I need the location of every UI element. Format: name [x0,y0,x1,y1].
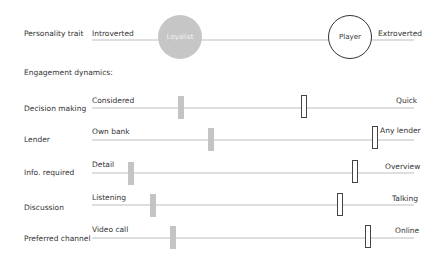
preferred-channel-label: Preferred channel [24,234,91,243]
decision-making-loyalist-marker[interactable] [178,96,184,119]
decision-making-label: Decision making [24,104,86,113]
overview-label: Overview [385,162,420,171]
discussion-loyalist-marker[interactable] [150,194,156,217]
any-lender-label: Any lender [380,126,421,135]
lender-label: Lender [24,135,50,144]
decision-making-track[interactable] [92,107,414,109]
info-required-player-marker[interactable] [352,160,358,183]
talking-label: Talking [392,194,418,203]
loyalist-marker[interactable]: Loyalist [158,15,202,59]
info-required-loyalist-marker[interactable] [128,162,134,185]
video-call-label: Video call [92,225,128,234]
online-label: Online [395,226,419,235]
decision-making-player-marker[interactable] [301,95,307,118]
introverted-label: Introverted [92,29,134,38]
preferred-channel-player-marker[interactable] [365,225,371,248]
detail-label: Detail [92,160,114,169]
discussion-player-marker[interactable] [337,193,343,216]
discussion-label: Discussion [24,203,64,212]
preferred-channel-loyalist-marker[interactable] [170,226,176,249]
lender-track[interactable] [92,139,414,141]
listening-label: Listening [92,193,126,202]
info-required-track[interactable] [92,172,414,174]
lender-loyalist-marker[interactable] [208,128,214,151]
engagement-dynamics-heading: Engagement dynamics: [24,68,113,77]
discussion-track[interactable] [92,204,414,206]
loyalist-label: Loyalist [167,33,194,41]
lender-player-marker[interactable] [372,126,378,149]
info-required-label: Info. required [24,168,74,177]
own-bank-label: Own bank [92,127,130,136]
quick-label: Quick [396,96,417,105]
considered-label: Considered [92,96,134,105]
player-label: Player [339,33,361,41]
extroverted-label: Extroverted [378,29,422,38]
player-marker[interactable]: Player [328,15,372,59]
personality-trait-label: Personality trait [24,29,83,38]
